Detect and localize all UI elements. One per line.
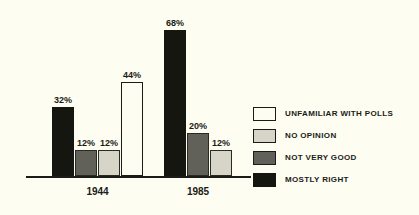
- legend-item: UNFAMILIAR WITH POLLS: [253, 103, 419, 124]
- legend-item-label: NO OPINION: [285, 131, 337, 140]
- bar-1944-no-opinion: [98, 150, 120, 176]
- bar-1944-unfamiliar: [121, 82, 143, 176]
- legend-swatch-icon: [253, 129, 276, 143]
- bar-value-label: 12%: [206, 138, 236, 148]
- legend-swatch-icon: [253, 173, 276, 187]
- bar-value-label: 20%: [183, 121, 213, 131]
- legend-item-label: NOT VERY GOOD: [285, 153, 357, 162]
- x-axis-line: [26, 176, 251, 178]
- legend-item-label: MOSTLY RIGHT: [285, 175, 349, 184]
- legend-item: NO OPINION: [253, 125, 419, 146]
- legend-item: NOT VERY GOOD: [253, 147, 419, 168]
- bar-value-label: 68%: [160, 18, 190, 28]
- bar-1985-no-opinion: [210, 150, 232, 176]
- bar-chart: 32%12%12%44%68%20%12% 19441985 UNFAMILIA…: [0, 0, 419, 215]
- bar-1985-mostly-right: [164, 30, 186, 176]
- bar-1944-not-very-good: [75, 150, 97, 176]
- legend-swatch-icon: [253, 107, 276, 121]
- x-axis-group-label-1985: 1985: [144, 186, 252, 197]
- bar-value-label: 32%: [48, 95, 78, 105]
- plot-area: 32%12%12%44%68%20%12% 19441985: [0, 0, 260, 215]
- chart-legend: UNFAMILIAR WITH POLLSNO OPINIONNOT VERY …: [253, 103, 419, 191]
- legend-item-label: UNFAMILIAR WITH POLLS: [285, 109, 393, 118]
- legend-item: MOSTLY RIGHT: [253, 169, 419, 190]
- legend-swatch-icon: [253, 151, 276, 165]
- bar-value-label: 44%: [117, 70, 147, 80]
- bar-value-label: 12%: [94, 138, 124, 148]
